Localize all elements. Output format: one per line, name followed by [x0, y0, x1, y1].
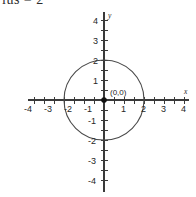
circle-graph-figure: ius = 2: [0, 0, 196, 197]
x-axis-label: x: [183, 87, 188, 96]
y-tick-label-3: 3: [93, 36, 98, 46]
x-tick-label-1: 1: [121, 104, 126, 114]
coordinate-plane-plot: x y -4 -3 -2 -1 1 2 3 4 4 3 2 1 -1 -2 -3…: [0, 0, 196, 197]
y-tick-label-2: 2: [93, 56, 98, 66]
y-tick-label-neg2: -2: [88, 136, 96, 146]
y-tick-label-1: 1: [93, 76, 98, 86]
x-tick-label-neg3: -3: [44, 104, 52, 114]
origin-point-label: (0,0): [110, 88, 127, 97]
x-tick-label-neg4: -4: [24, 104, 32, 114]
y-tick-label-neg1: -1: [88, 116, 96, 126]
x-tick-label-neg1: -1: [84, 104, 92, 114]
y-axis-label: y: [107, 11, 112, 20]
y-tick-label-neg4: -4: [88, 176, 96, 186]
y-tick-label-4: 4: [93, 16, 98, 26]
x-tick-label-neg2: -2: [64, 104, 72, 114]
x-tick-label-4: 4: [181, 104, 186, 114]
y-tick-label-neg3: -3: [88, 156, 96, 166]
x-tick-label-3: 3: [161, 104, 166, 114]
origin-point-marker: [101, 97, 106, 102]
x-tick-label-2: 2: [141, 104, 146, 114]
